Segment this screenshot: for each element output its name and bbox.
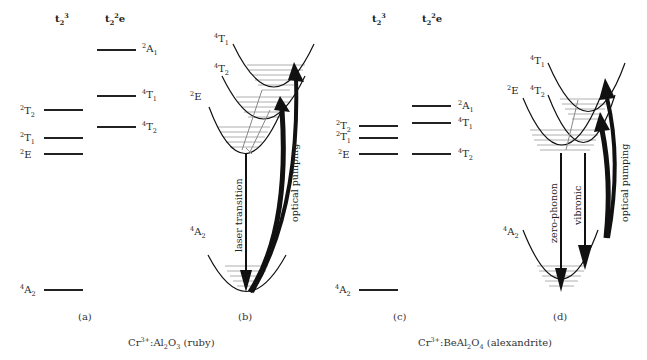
label-4T2: 4T2 (458, 147, 473, 162)
header-t2-3: t23 (372, 12, 386, 27)
vibronic-label: vibronic (572, 186, 583, 226)
curve-2E (209, 107, 283, 154)
panel-b-label: (b) (238, 311, 252, 322)
label-2T2: 2T2 (20, 104, 35, 119)
zero-phonon-label: zero-phonon (548, 183, 559, 243)
pump-arrow-4T2 (602, 130, 608, 238)
panel-c-label: (c) (393, 311, 407, 322)
header-t2-2e: t22e (422, 12, 442, 27)
energy-level-diagram: t23 t22e 2T2 2T1 2E 4A2 2A1 4T1 4T2 (a) (0, 0, 647, 360)
label-4T2: 4T2 (530, 84, 545, 99)
zero-phonon-arrowhead (555, 268, 567, 292)
label-4A2: 4A2 (20, 283, 36, 298)
label-4A2: 4A2 (335, 283, 351, 298)
label-2T1: 2T1 (20, 131, 35, 146)
nonradiative-relaxation (566, 100, 578, 150)
optical-pumping-label: optical pumping (619, 144, 630, 222)
nonradiative-relaxation (242, 90, 270, 154)
panel-a-label: (a) (78, 311, 92, 322)
panel-a: t23 t22e 2T2 2T1 2E 4A2 2A1 4T1 4T2 (a) (20, 12, 158, 322)
label-2E: 2E (507, 84, 518, 96)
label-4T2: 4T2 (142, 120, 157, 135)
header-t2-2e: t22e (105, 12, 125, 27)
label-2A1: 2A1 (142, 42, 158, 57)
label-2E: 2E (20, 148, 31, 160)
label-4A2: 4A2 (190, 225, 206, 240)
panel-d: 4T1 4T2 2E 4A2 zero-phonon vibronic opti… (503, 54, 630, 322)
label-4T1: 4T1 (214, 32, 229, 47)
label-2A1: 2A1 (458, 99, 474, 114)
label-2E: 2E (190, 90, 201, 102)
label-4T1: 4T1 (142, 88, 157, 103)
caption-alexandrite: Cr3+:BeAl2O4 (alexandrite) (418, 336, 552, 351)
panel-b: 4T1 4T2 2E 4A2 laser transition optical … (190, 32, 314, 322)
vibrational-levels-2E-4T2 (530, 130, 600, 150)
optical-pumping-label: optical pumping (289, 144, 300, 222)
label-4T1: 4T1 (530, 54, 545, 69)
caption-ruby: Cr3+:Al2O3 (ruby) (128, 336, 215, 351)
label-4A2: 4A2 (503, 225, 519, 240)
panel-c: t23 t22e 2T2 2T1 2E 4A2 2A1 4T1 4T2 (c) (335, 12, 474, 322)
header-t2-3: t23 (55, 12, 69, 27)
curve-2E (523, 98, 600, 145)
panel-d-label: (d) (553, 311, 567, 322)
laser-transition-label: laser transition (233, 178, 244, 252)
vibrational-levels-4T1 (560, 99, 610, 119)
label-4T2: 4T2 (214, 62, 229, 77)
curve-4T2 (222, 76, 305, 119)
label-4T1: 4T1 (458, 116, 473, 131)
label-2E: 2E (338, 148, 349, 160)
